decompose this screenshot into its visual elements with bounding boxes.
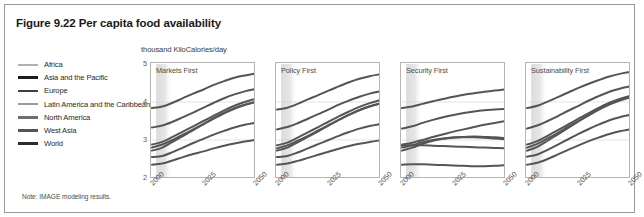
panel-title: Policy First — [281, 66, 316, 75]
legend-item: Asia and the Pacific — [18, 71, 146, 84]
legend-item-label: Africa — [44, 60, 63, 69]
legend-item: North America — [18, 111, 146, 124]
legend-line-swatch — [18, 76, 38, 79]
panel-title: Security First — [406, 66, 448, 75]
figure-note: Note: IMAGE modeling results. — [22, 193, 111, 200]
legend-item: World — [18, 137, 146, 150]
legend-item-label: West Asia — [44, 126, 76, 135]
legend-item: Africa — [18, 58, 146, 71]
figure-title: Figure 9.22 Per capita food availability — [16, 17, 221, 29]
plot-area: Sustainability First — [525, 62, 630, 178]
legend-line-swatch — [18, 129, 38, 131]
plot-svg — [151, 63, 255, 178]
legend-line-swatch — [18, 103, 38, 105]
y-axis-tick-label: 5 — [137, 59, 147, 68]
legend-line-swatch — [18, 90, 38, 93]
chart-legend: AfricaAsia and the PacificEuropeLatin Am… — [18, 58, 146, 150]
chart-panel: Policy First — [275, 62, 380, 178]
chart-panel: Sustainability First — [525, 62, 630, 178]
plot-area: Markets First — [150, 62, 255, 178]
legend-item: West Asia — [18, 124, 146, 137]
chart-panel: Markets First — [150, 62, 255, 178]
panel-title: Sustainability First — [531, 66, 589, 75]
plot-svg — [401, 63, 505, 178]
legend-item: Europe — [18, 84, 146, 97]
y-axis-tick-label: 3 — [137, 135, 147, 144]
y-axis-tick-label: 4 — [137, 97, 147, 106]
chart-panel: Security First — [400, 62, 505, 178]
legend-item-label: North America — [44, 113, 90, 122]
y-axis-title: thousand KiloCalories/day — [141, 45, 227, 54]
plot-svg — [276, 63, 380, 178]
legend-line-swatch — [18, 116, 38, 118]
legend-item-label: Europe — [44, 86, 68, 95]
legend-item-label: Latin America and the Caribbean — [44, 100, 150, 109]
panel-title: Markets First — [156, 66, 197, 75]
highlight-band — [406, 64, 422, 178]
legend-item: Latin America and the Caribbean — [18, 98, 146, 111]
legend-line-swatch — [18, 64, 38, 66]
y-axis-tick-label: 2 — [137, 173, 147, 182]
legend-line-swatch — [18, 142, 38, 145]
plot-area: Security First — [400, 62, 505, 178]
plot-svg — [526, 63, 630, 178]
plot-area: Policy First — [275, 62, 380, 178]
legend-item-label: World — [44, 139, 63, 148]
legend-item-label: Asia and the Pacific — [44, 73, 108, 82]
